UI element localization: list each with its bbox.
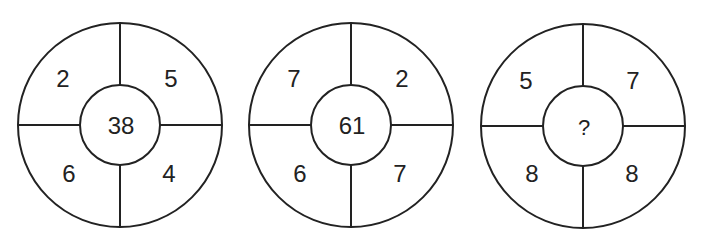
segment-top-left: 2 [56,65,69,92]
segment-bottom-right: 7 [393,160,406,187]
segment-bottom-left: 8 [525,160,538,187]
segment-bottom-right: 8 [625,160,638,187]
segment-top-left: 5 [519,67,532,94]
center-unknown-value: ? [578,115,590,140]
segment-top-left: 7 [287,65,300,92]
puzzle-circle-3: 5 7 8 8 ? [481,24,685,228]
puzzle-circle-2: 7 2 6 7 61 [249,23,453,227]
center-value: 38 [108,112,135,139]
segment-bottom-right: 4 [162,160,175,187]
number-circle-puzzle: 2 5 6 4 38 7 2 6 7 61 5 7 8 8 ? [0,0,703,237]
segment-top-right: 7 [626,67,639,94]
center-value: 61 [339,112,366,139]
segment-bottom-left: 6 [62,160,75,187]
puzzle-circle-1: 2 5 6 4 38 [18,23,222,227]
segment-bottom-left: 6 [293,160,306,187]
segment-top-right: 5 [164,65,177,92]
segment-top-right: 2 [395,65,408,92]
